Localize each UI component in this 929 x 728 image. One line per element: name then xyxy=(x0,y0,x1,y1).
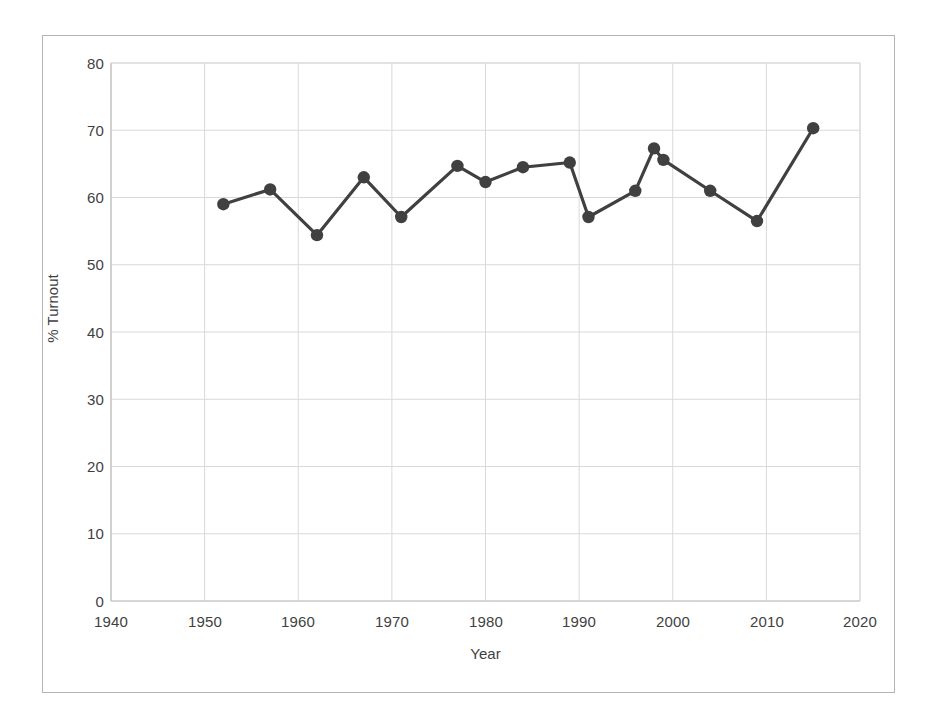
data-point-marker xyxy=(517,161,529,173)
data-point-marker xyxy=(264,183,276,195)
data-point-marker xyxy=(657,154,669,166)
data-point-marker xyxy=(217,198,229,210)
data-point-marker xyxy=(807,122,819,134)
plot-svg xyxy=(0,0,929,728)
data-point-marker xyxy=(451,160,463,172)
chart-container: 80 70 60 50 40 30 20 10 0 1940 1950 1960… xyxy=(0,0,929,728)
turnout-data-markers xyxy=(217,122,819,241)
gridlines-group xyxy=(111,63,860,601)
data-point-marker xyxy=(582,211,594,223)
data-point-marker xyxy=(648,142,660,154)
data-point-marker xyxy=(751,215,763,227)
data-point-marker xyxy=(564,156,576,168)
data-point-marker xyxy=(358,171,370,183)
data-point-marker xyxy=(479,176,491,188)
turnout-line-series xyxy=(223,128,813,235)
data-point-marker xyxy=(311,229,323,241)
data-point-marker xyxy=(704,185,716,197)
data-point-marker xyxy=(629,185,641,197)
data-point-marker xyxy=(395,211,407,223)
